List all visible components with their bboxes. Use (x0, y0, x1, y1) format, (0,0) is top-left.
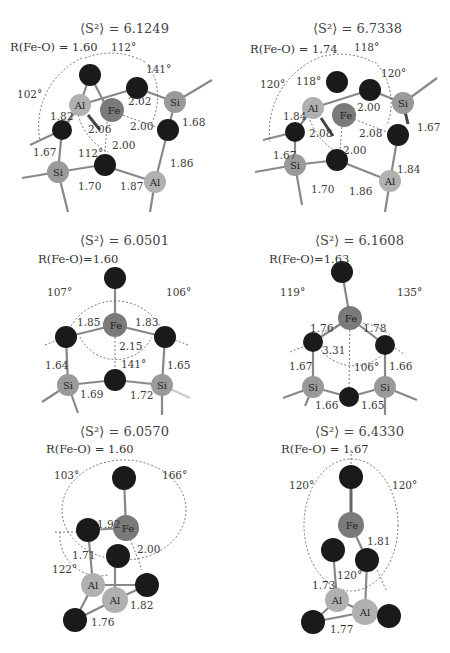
panel-a: ⟨S²⟩ = 6.1249 R(Fe-O) = 1.60 Al Fe Si Si… (0, 0, 225, 215)
bond-angle-label: 106° (166, 287, 191, 298)
spin-expectation-label: ⟨S²⟩ = 6.4330 (315, 425, 404, 438)
panel-e: ⟨S²⟩ = 6.0570 R(Fe-O) = 1.60 Fe Al Al 1.… (0, 420, 225, 653)
bond-length-label: 1.84 (397, 164, 420, 175)
bond-length-label: 2.15 (119, 341, 142, 352)
atoms (55, 267, 176, 396)
distance-line (377, 570, 387, 592)
atom-label: Si (380, 383, 390, 393)
bond-length-label: 1.67 (33, 147, 56, 158)
atom-label: Fe (345, 314, 357, 324)
bond-angle-label: 112° (78, 148, 103, 159)
bond-length-label: 1.70 (78, 181, 101, 192)
atom-oxygen (79, 64, 101, 86)
atom-label: Fe (122, 524, 134, 534)
atom-oxygen (154, 326, 176, 348)
atom-label: Si (53, 168, 63, 178)
atom-oxygen (377, 604, 401, 628)
bond-length-label: 1.64 (45, 360, 68, 371)
panel-f: ⟨S²⟩ = 6.4330 R(Fe-O) = 1.67 Fe Al Al 1.… (225, 420, 450, 653)
distance-line (290, 346, 305, 352)
bond-length-label: 1.81 (367, 536, 390, 547)
bond-length-label: 1.67 (273, 150, 296, 161)
atom-oxygen (359, 79, 381, 101)
bond-length-label: 1.78 (363, 323, 386, 334)
bond-length-label: 1.86 (170, 158, 193, 169)
atom-label: Si (290, 161, 300, 171)
bond-length-label: 1.65 (361, 400, 384, 411)
bond-angle-label: 102° (17, 89, 42, 100)
angle-arc (85, 53, 145, 62)
panel-d: ⟨S²⟩ = 6.1608 R(Fe-O)=1.63 Fe Si Si 1.76… (225, 220, 450, 420)
bond-length-label: 1.72 (130, 390, 153, 401)
atom-oxygen (339, 465, 363, 489)
atom-label: Al (150, 178, 160, 188)
bond-length-label: 1.92 (97, 519, 120, 530)
atom-label: Fe (110, 321, 122, 331)
bond-length-label: 1.70 (311, 184, 334, 195)
bond-length-label: 1.87 (120, 181, 143, 192)
bond-length-label: 2.02 (128, 96, 151, 107)
bond-angle-label: 166° (162, 470, 187, 481)
fe-o-distance-label: R(Fe-O)=1.60 (38, 254, 118, 266)
atom-oxygen (55, 326, 77, 348)
bond-length-label: 1.84 (283, 111, 306, 122)
panel-c: ⟨S²⟩ = 6.0501 R(Fe-O)=1.60 Fe Si Si 1.85… (0, 220, 225, 420)
distance-line (175, 340, 188, 345)
atom-label: Si (170, 98, 180, 108)
bond-angle-label: 120° (260, 79, 285, 90)
bond-length-label: 1.82 (130, 600, 153, 611)
bond-length-label: 1.86 (349, 186, 372, 197)
atoms (284, 71, 414, 192)
bond-length-label: 1.71 (72, 550, 95, 561)
bond-angle-label: 120° (392, 480, 417, 491)
bond-angle-label: 103° (54, 470, 79, 481)
atom-oxygen (339, 387, 359, 407)
atom-oxygen (63, 608, 87, 632)
bond-angle-label: 141° (121, 359, 146, 370)
bond-length-label: 1.66 (315, 400, 338, 411)
atom-oxygen (106, 544, 130, 568)
bond-angle-label: 122° (52, 564, 77, 575)
fe-o-distance-label: R(Fe-O) = 1.74 (250, 44, 338, 56)
bond-angle-label: 120° (289, 480, 314, 491)
atom-oxygen (375, 335, 395, 355)
fe-o-distance-label: R(Fe-O)=1.63 (269, 254, 349, 266)
atom-oxygen (301, 610, 325, 634)
atom-label: Si (308, 383, 318, 393)
bond-length-label: 2.00 (112, 140, 135, 151)
bond-length-label: 1.65 (167, 360, 190, 371)
bond-length-label: 1.67 (289, 361, 312, 372)
spin-expectation-label: ⟨S²⟩ = 6.7338 (313, 22, 402, 35)
fe-o-distance-label: R(Fe-O) = 1.60 (46, 444, 134, 456)
bond-length-label: 1.66 (389, 361, 412, 372)
bond-length-label: 1.73 (312, 580, 335, 591)
bond-length-label: 1.67 (417, 122, 440, 133)
atom-oxygen (135, 573, 159, 597)
bond-angle-label: 135° (397, 287, 422, 298)
atom-label: Fe (346, 521, 358, 531)
atom-label: Al (88, 581, 98, 591)
bond-angle-label: 141° (146, 64, 171, 75)
atom-label: Si (63, 381, 73, 391)
atom-oxygen (104, 267, 126, 289)
distance-line (395, 348, 405, 355)
atom-label: Si (398, 99, 408, 109)
bond-angle-label: 120° (381, 68, 406, 79)
bond-length-label: 2.00 (343, 145, 366, 156)
bond-length-label: 2.08 (309, 128, 332, 139)
atom-label: Fe (108, 106, 120, 116)
atom-oxygen (285, 122, 305, 142)
bond-angle-label: 119° (280, 287, 305, 298)
atom-label: Al (110, 596, 120, 606)
bond-angle-label: 107° (47, 287, 72, 298)
bond-angle-label: 118° (296, 76, 321, 87)
bond-length-label: 1.83 (135, 317, 158, 328)
bond-length-label: 1.82 (50, 111, 73, 122)
bond-angle-label: 118° (354, 42, 379, 53)
atom-label: Si (157, 381, 167, 391)
atom-label: Fe (340, 111, 352, 121)
bond-length-label: 3.31 (322, 345, 345, 356)
bond-length-label: 2.00 (137, 544, 160, 555)
atom-oxygen (387, 124, 409, 146)
atom-oxygen (157, 119, 179, 141)
